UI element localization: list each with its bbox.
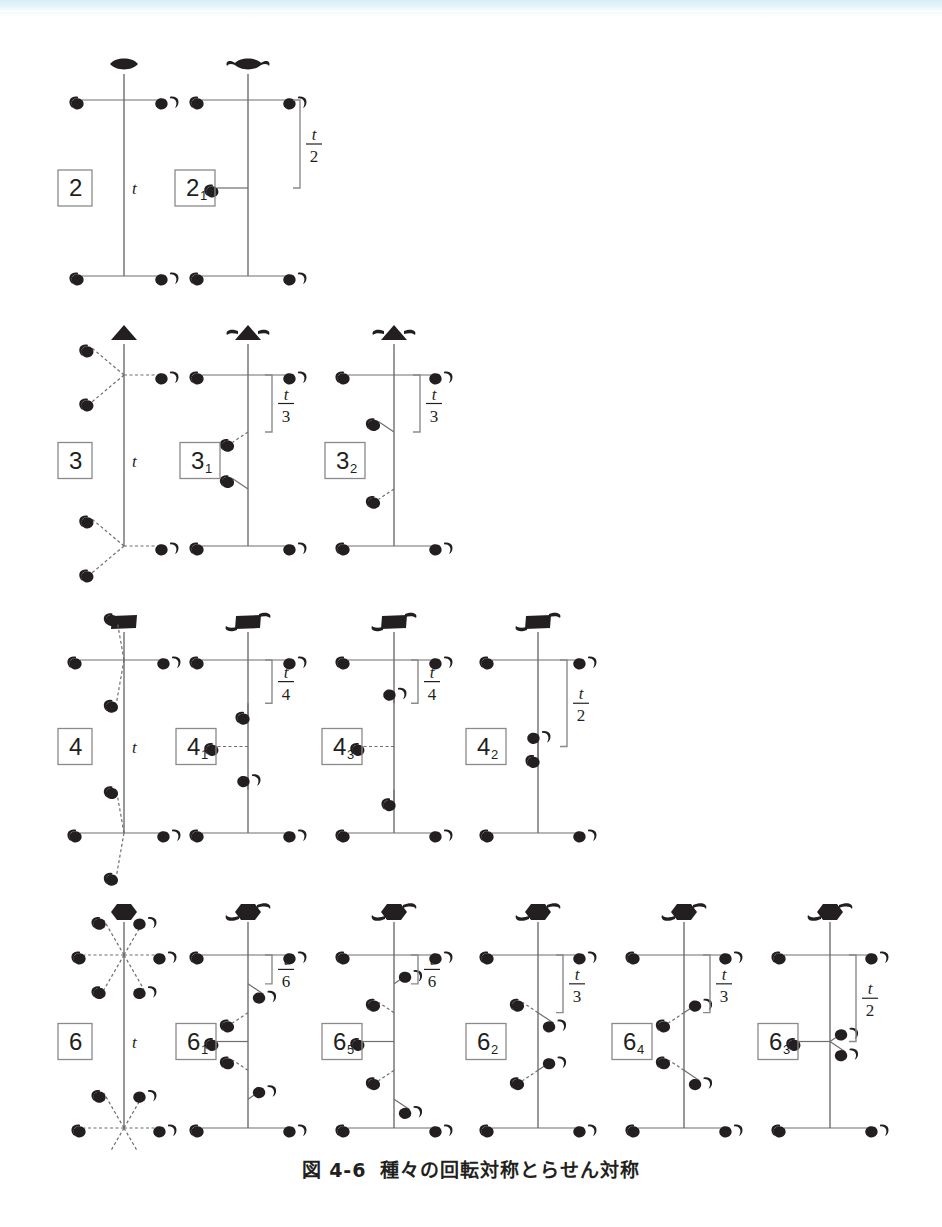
axis-label-subscript: 2 — [491, 747, 498, 762]
translation-denominator: 6 — [428, 972, 437, 991]
comma-motif — [237, 774, 260, 787]
comma-motif — [283, 273, 306, 286]
translation-bracket — [703, 955, 710, 1013]
symmetry-cell-31: 31t3 — [180, 325, 307, 555]
comma-motif — [104, 786, 118, 799]
axis-label-subscript: 1 — [205, 461, 212, 476]
comma-motif — [835, 1028, 858, 1041]
symmetry-row-6: 6t61t665t662t364t363t2 — [58, 903, 889, 1150]
symmetry-cell-64: 64t3 — [612, 903, 743, 1137]
axis-symbol-hexagon-tail — [808, 903, 853, 921]
symmetry-arm — [248, 984, 264, 994]
comma-motif — [189, 830, 203, 843]
comma-motif — [283, 97, 306, 110]
comma-motif — [155, 543, 178, 556]
axis-label-text: 4 — [69, 733, 82, 760]
axis-label-subscript: 4 — [637, 1042, 644, 1057]
axis-symbol-hexagon-tail — [516, 903, 561, 921]
axis-label-subscript: 1 — [200, 188, 207, 203]
symmetry-row-2: 2t21t2 — [58, 59, 322, 286]
translation-bracket — [411, 660, 418, 703]
comma-motif — [771, 952, 785, 965]
symmetry-arm — [394, 1099, 410, 1109]
comma-motif — [91, 917, 105, 930]
comma-motif — [510, 1077, 524, 1090]
symmetry-cell-65: 65t6 — [322, 903, 453, 1137]
symmetry-arm — [232, 1013, 248, 1023]
symmetry-arm — [104, 1128, 124, 1150]
symmetry-arm — [92, 519, 124, 546]
comma-motif — [366, 418, 380, 431]
comma-motif — [189, 1125, 203, 1138]
comma-motif — [543, 1020, 566, 1033]
symmetry-arm — [104, 1093, 124, 1128]
comma-motif — [543, 1056, 566, 1069]
symmetry-arm — [232, 1060, 248, 1070]
axis-symbol-square-tail — [226, 613, 271, 631]
symmetry-arm — [668, 1060, 684, 1070]
comma-motif — [69, 97, 83, 110]
axis-label-text: 3 — [69, 447, 82, 474]
translation-bracket — [556, 955, 563, 1013]
translation-denominator: 4 — [428, 685, 437, 704]
translation-numerator: t — [868, 979, 874, 998]
axis-symbol-hexagon-tail — [226, 903, 271, 921]
translation-denominator: 3 — [720, 987, 729, 1006]
symmetry-arm — [684, 1070, 700, 1080]
comma-motif — [189, 273, 203, 286]
symmetry-arm — [104, 920, 124, 955]
axis-symbol-triangle-tail — [373, 325, 416, 340]
symmetry-arm — [378, 1002, 394, 1012]
comma-motif — [104, 700, 118, 713]
axis-symbol-square-tail — [516, 613, 561, 631]
translation-denominator: 2 — [577, 706, 586, 725]
axis-label-text: 3 — [191, 447, 204, 474]
comma-motif — [573, 1125, 596, 1138]
comma-motif — [189, 372, 203, 385]
comma-motif — [527, 731, 550, 744]
comma-motif — [157, 657, 180, 670]
axis-label-text: 3 — [336, 447, 349, 474]
axis-period-label: t — [132, 738, 138, 757]
comma-motif — [479, 1125, 493, 1138]
symmetry-cell-63: 63t2 — [758, 903, 889, 1137]
comma-motif — [67, 657, 81, 670]
symmetry-arm — [92, 375, 124, 402]
translation-bracket — [265, 660, 272, 703]
axis-label-text: 2 — [186, 174, 199, 201]
comma-motif — [383, 688, 406, 701]
comma-motif — [335, 372, 349, 385]
axis-label-text: 6 — [187, 1028, 200, 1055]
translation-denominator: 2 — [310, 147, 319, 166]
comma-motif — [429, 372, 452, 385]
comma-motif — [155, 97, 178, 110]
axis-symbol-hexagon-tail — [372, 903, 417, 921]
axis-label-text: 4 — [187, 733, 200, 760]
axis-symbol-hexagon — [111, 904, 137, 920]
symmetry-arm — [378, 422, 394, 432]
comma-motif — [189, 657, 203, 670]
symmetry-arm — [92, 348, 124, 375]
comma-motif — [189, 97, 203, 110]
axis-label-text: 4 — [333, 733, 346, 760]
translation-numerator: t — [575, 965, 581, 984]
comma-motif — [220, 1056, 234, 1069]
translation-numerator: t — [722, 965, 728, 984]
symmetry-cell-21: 21t2 — [175, 59, 322, 286]
axis-label-subscript: 1 — [201, 1042, 208, 1057]
comma-motif — [656, 1056, 670, 1069]
axis-symbol-triangle — [111, 325, 137, 340]
axis-label-subscript: 2 — [350, 461, 357, 476]
figure-caption-text: 種々の回転対称とらせん対称 — [380, 1159, 640, 1181]
comma-motif — [79, 570, 93, 583]
comma-motif — [104, 613, 118, 626]
axis-label-text: 6 — [769, 1028, 782, 1055]
axis-label-subscript: 3 — [347, 747, 354, 762]
translation-bracket — [265, 955, 272, 984]
comma-motif — [719, 952, 742, 965]
comma-motif — [335, 830, 349, 843]
translation-denominator: 3 — [573, 987, 582, 1006]
comma-motif — [429, 543, 452, 556]
translation-denominator: 6 — [282, 972, 291, 991]
symmetry-cell-6: 6t — [58, 904, 177, 1150]
